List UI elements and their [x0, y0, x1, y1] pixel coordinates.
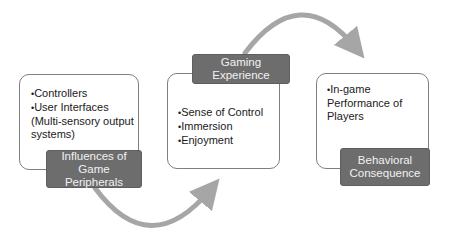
- bullet-item: Sense of Control: [178, 106, 278, 120]
- bullet-item: User Interfaces (Multi-sensory output sy…: [31, 101, 136, 141]
- consequence-bullets: In-game Performance of Players: [327, 83, 427, 123]
- experience-label: Gaming Experience: [192, 54, 290, 84]
- arrow-experience-to-consequence: [245, 15, 355, 53]
- arrow-influences-to-experience: [95, 188, 210, 226]
- bullet-item: In-game Performance of Players: [327, 83, 427, 123]
- influences-label: Influences of Game Peripherals: [46, 150, 142, 188]
- experience-bullets: Sense of Control Immersion Enjoyment: [178, 106, 278, 148]
- bullet-item: Immersion: [178, 120, 278, 134]
- bullet-item: Enjoyment: [178, 134, 278, 148]
- bullet-item: Controllers: [31, 87, 136, 101]
- experience-box: Sense of Control Immersion Enjoyment: [167, 73, 280, 169]
- influences-bullets: Controllers User Interfaces (Multi-senso…: [31, 87, 136, 141]
- consequence-label: Behavioral Consequence: [340, 148, 430, 186]
